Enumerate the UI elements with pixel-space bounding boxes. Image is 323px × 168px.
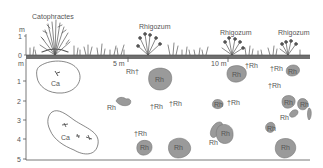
species-label-catophractes: Catophractes [32, 13, 74, 20]
root-label: Rh [281, 144, 290, 151]
root-label: Rh [280, 114, 289, 121]
species-label-rhigozum-3: Rhigozum [278, 29, 310, 36]
below-axis-tick-5: 5 [17, 156, 21, 163]
root-label: Rh [221, 130, 230, 137]
root-label: Rh† [126, 68, 139, 75]
root-label: †Rh [169, 100, 182, 107]
catophractes-patch-upper [37, 61, 80, 93]
distance-marker-10m: 10 m [211, 60, 227, 67]
root-label: Rh [174, 144, 183, 151]
root-label: Rh [232, 71, 241, 78]
below-axis-tick-1: 1 [17, 78, 21, 85]
root-label: Rh [155, 76, 164, 83]
catophractes-shrub-icon [40, 20, 70, 55]
above-ground-axis [24, 34, 26, 55]
root-label: Rh [288, 68, 297, 75]
below-axis-tick-3: 3 [17, 117, 21, 124]
root-label: Rh [140, 144, 149, 151]
root-label: †Rh [245, 62, 258, 69]
above-axis-tick-1: 1 [18, 33, 22, 40]
species-label-rhigozum-2: Rhigozum [220, 29, 252, 36]
root-label: Rh [267, 125, 276, 132]
above-axis-tick-0: 0 [18, 52, 22, 59]
root-label: †Rh [270, 65, 283, 72]
patch-label: Ca [51, 80, 60, 87]
below-axis-unit: m [18, 60, 24, 67]
below-axis-tick-2: 2 [17, 98, 21, 105]
root-label: †Rh [134, 130, 147, 137]
root-label: Rh [214, 101, 223, 108]
ground-surface [26, 55, 310, 59]
catophractes-patch-lower [48, 111, 98, 154]
rhigozum-shrub-icon [222, 37, 244, 55]
root-label: Rh [107, 104, 116, 111]
root-label: †Rh [227, 99, 240, 106]
rhigozum-shrub-icon [137, 33, 162, 55]
root-label: Rh [300, 101, 309, 108]
above-axis-unit: m [19, 26, 25, 33]
root-label: †Rh [150, 103, 163, 110]
rhigozum-shrub-icon [280, 40, 297, 55]
species-label-rhigozum-1: Rhigozum [139, 23, 171, 30]
below-axis-tick-4: 4 [17, 136, 21, 143]
distance-marker-5m: 5 m [113, 60, 125, 67]
root-label: Rh [284, 99, 293, 106]
root-label: Rh [209, 139, 218, 146]
root-label: †Rh [268, 82, 281, 89]
patch-label: Ca [61, 134, 70, 141]
